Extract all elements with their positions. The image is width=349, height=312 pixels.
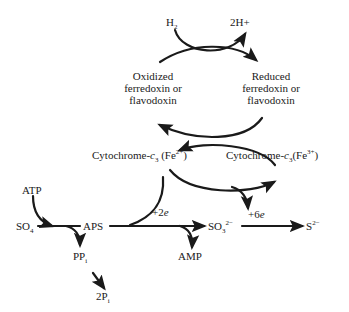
cyt-fe2-fe: (Fe: [158, 149, 175, 161]
cytochrome-c3-fe3-label: Cytochrome-c3(Fe3+): [226, 149, 318, 161]
amp-output-arrow: [180, 226, 192, 247]
aps-label: APS: [83, 220, 103, 232]
cyt-fe3-fe: (Fe: [292, 149, 307, 161]
oxidized-ferredoxin-label: Oxidized ferredoxin or flavodoxin: [112, 70, 194, 106]
reduced-line3: flavodoxin: [230, 94, 312, 106]
2pi-sub: i: [108, 297, 110, 305]
plus-6e-label: +6e: [248, 208, 265, 220]
cyt-fe3-close: ): [315, 149, 319, 161]
atp-input-arrow: [33, 196, 52, 226]
atp-label: ATP: [22, 184, 42, 196]
oxidized-line3: flavodoxin: [112, 94, 194, 106]
plus-6e-sign: +6: [248, 208, 260, 220]
oxidized-line2: ferredoxin or: [112, 82, 194, 94]
2h-plus-label: 2H+: [230, 16, 250, 28]
so4-text: SO: [16, 220, 30, 232]
plus-2e-label: +2e: [152, 206, 169, 218]
reduced-ferredoxin-label: Reduced ferredoxin or flavodoxin: [230, 70, 312, 106]
plus-6e-e: e: [260, 208, 265, 220]
oxidized-line1: Oxidized: [112, 70, 194, 82]
h2-label: H2: [166, 16, 177, 28]
so3-sup: 2−: [226, 219, 233, 227]
cyt-fe2-prefix: Cytochrome-: [92, 149, 150, 161]
so3-text: SO: [208, 220, 222, 232]
s2-label: S2−: [306, 220, 320, 232]
cyt-fe3-sup: 3+: [307, 148, 314, 156]
2pi-text: 2P: [96, 290, 108, 302]
cytochrome-c3-fe2-label: Cytochrome-c3 (Fe2+): [92, 149, 187, 161]
ppi-label: PPi: [73, 250, 87, 262]
ppi-output-arrow: [66, 226, 80, 245]
plus-2e-e: e: [164, 206, 169, 218]
so3-sub: 3: [222, 227, 226, 235]
reduced-to-oxidized-arrow: [160, 118, 262, 137]
h2-text: H: [166, 16, 174, 28]
cyt-fe2-close: ): [183, 149, 187, 161]
ppi-text: PP: [73, 250, 85, 262]
ppi-sub: i: [85, 257, 87, 265]
plus-2e-sign: +2: [152, 206, 164, 218]
reduced-line2: ferredoxin or: [230, 82, 312, 94]
so4-label: SO4: [16, 220, 34, 232]
reduced-line1: Reduced: [230, 70, 312, 82]
ppi-to-2pi-arrow: [93, 273, 104, 288]
cyt-fe2-to-fe3-arrow: [170, 170, 274, 191]
2pi-label: 2Pi: [96, 290, 110, 302]
cyt-fe3-prefix: Cytochrome-: [226, 149, 284, 161]
h2-sub: 2: [174, 23, 178, 31]
amp-label: AMP: [178, 250, 202, 262]
so4-sub: 4: [30, 227, 34, 235]
s2-sup: 2−: [312, 219, 319, 227]
so3-label: SO32−: [208, 220, 233, 232]
oxidized-to-reduced-arrow: [160, 47, 256, 62]
